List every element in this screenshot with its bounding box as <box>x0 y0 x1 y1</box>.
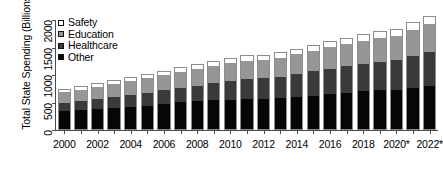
bar-segment-education <box>225 63 236 81</box>
bar <box>423 16 436 130</box>
x-axis-tick <box>313 130 314 134</box>
x-axis-tick <box>330 130 331 134</box>
x-axis-tick <box>280 130 281 134</box>
bar <box>91 83 104 130</box>
x-axis <box>56 130 438 138</box>
legend-label: Other <box>68 52 94 63</box>
x-axis-tick <box>347 130 348 134</box>
y-axis-tick-label: 0 <box>42 130 54 136</box>
bar-segment-education <box>391 36 402 61</box>
bar-segment-education <box>275 58 286 77</box>
bar-segment-other <box>108 108 119 129</box>
bar-segment-education <box>358 41 369 64</box>
x-axis-tick <box>81 130 82 134</box>
bar <box>124 77 137 130</box>
x-axis-tick <box>230 130 231 134</box>
bar-segment-education <box>291 54 302 74</box>
y-axis-tick-label: 1500 <box>42 48 54 71</box>
bar-segment-healthcare <box>341 66 352 93</box>
bar-segment-other <box>374 90 385 129</box>
bar <box>390 29 403 130</box>
x-axis-tick-label: 2006 <box>153 138 176 150</box>
x-axis-tick-label: 2018 <box>352 138 375 150</box>
y-axis-title: Total State Spending (Billions $) <box>20 0 32 131</box>
bar-segment-healthcare <box>374 62 385 90</box>
bar-segment-healthcare <box>407 56 418 88</box>
bar <box>406 22 419 130</box>
bar-segment-healthcare <box>175 88 186 102</box>
legend-item-healthcare: Healthcare <box>58 40 118 51</box>
bar-segment-healthcare <box>258 78 269 99</box>
bar-segment-education <box>175 72 186 88</box>
legend-label: Healthcare <box>68 40 118 51</box>
bar-segment-healthcare <box>275 77 286 98</box>
x-axis-tick <box>64 130 65 134</box>
bar-segment-other <box>324 94 335 129</box>
x-axis-tick <box>264 130 265 134</box>
bar <box>174 67 187 130</box>
bar-segment-education <box>75 90 86 101</box>
x-axis-tick <box>380 130 381 134</box>
legend-swatch-other-icon <box>58 54 64 60</box>
bar-segment-education <box>308 51 319 72</box>
legend-item-safety: Safety <box>58 17 118 28</box>
bar-segment-other <box>192 101 203 129</box>
bar-segment-healthcare <box>225 81 236 100</box>
x-axis-tick <box>164 130 165 134</box>
bar <box>74 86 87 130</box>
bar-segment-other <box>225 100 236 129</box>
bar-segment-other <box>75 110 86 129</box>
bar <box>157 71 170 130</box>
bar <box>274 52 287 130</box>
bar-segment-other <box>308 96 319 129</box>
bar-segment-healthcare <box>158 90 169 104</box>
x-axis-tick <box>131 130 132 134</box>
bar <box>323 41 336 130</box>
y-axis-tick-label: 500 <box>42 103 54 120</box>
bar-segment-other <box>125 107 136 129</box>
bar <box>257 55 270 130</box>
bar-segment-other <box>92 109 103 129</box>
x-axis-tick-label: 2020* <box>383 138 409 150</box>
bar-segment-education <box>192 69 203 86</box>
x-axis-tick-label: 2012 <box>252 138 275 150</box>
x-axis-tick <box>214 130 215 134</box>
bar-segment-healthcare <box>125 95 136 107</box>
bar-segment-education <box>142 78 153 92</box>
x-axis-tick-label: 2010 <box>219 138 242 150</box>
bar-segment-education <box>424 24 435 52</box>
bar-segment-healthcare <box>75 101 86 110</box>
y-axis-tick-label: 2000 <box>42 20 54 43</box>
bar-segment-healthcare <box>391 60 402 89</box>
x-axis-tick <box>98 130 99 134</box>
x-axis-tick <box>181 130 182 134</box>
bar-segment-other <box>158 104 169 129</box>
bar <box>357 34 370 130</box>
bar-segment-other <box>142 106 153 129</box>
bar-segment-healthcare <box>208 83 219 100</box>
bar <box>290 49 303 130</box>
chart-legend: SafetyEducationHealthcareOther <box>58 17 118 63</box>
bar-segment-education <box>374 38 385 62</box>
x-axis-tick-label: 2014 <box>286 138 309 150</box>
bar-segment-healthcare <box>358 64 369 91</box>
bar-segment-education <box>59 92 70 102</box>
x-axis-tick <box>413 130 414 134</box>
bar-segment-other <box>258 99 269 129</box>
bar-segment-healthcare <box>424 52 435 86</box>
bar-segment-other <box>391 90 402 129</box>
x-axis-tick-label: 2004 <box>119 138 142 150</box>
bar-segment-safety <box>424 17 435 24</box>
bar <box>340 38 353 130</box>
legend-swatch-education-icon <box>58 31 64 37</box>
x-axis-tick <box>147 130 148 134</box>
y-axis-tick-label: 1000 <box>42 75 54 98</box>
x-axis-tick-label: 2002 <box>86 138 109 150</box>
x-axis-tick <box>363 130 364 134</box>
x-axis-tick <box>297 130 298 134</box>
x-axis-tick <box>114 130 115 134</box>
bar-segment-other <box>407 88 418 129</box>
bar <box>141 74 154 130</box>
x-axis-tick-label: 2022* <box>416 138 442 150</box>
